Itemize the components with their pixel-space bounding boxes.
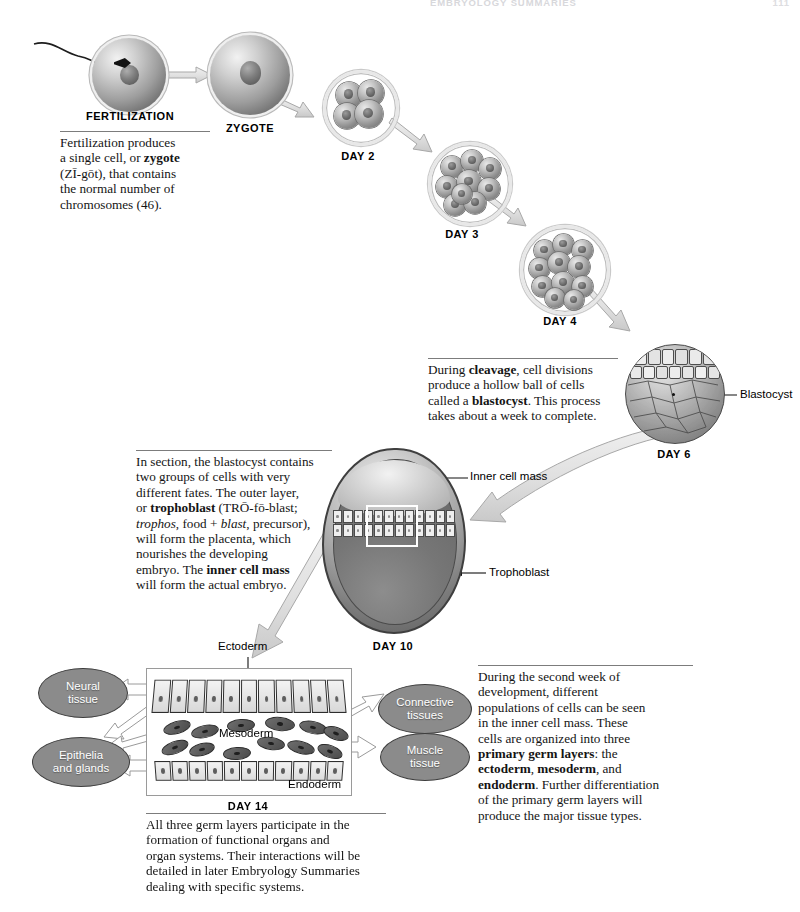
caption-germ-layers-line3: organ systems. Their interactions will b… [146, 848, 386, 863]
caption-section-line4: or trophoblast (TRŌ-fō-blast; [136, 500, 332, 515]
tissue-oval-epithelia-line2: and glands [53, 762, 109, 775]
tissue-oval-neural-line2: tissue [66, 693, 100, 706]
caption-second-week-line10: produce the major tissue types. [478, 808, 693, 823]
caption-section-line3: different fates. The outer layer, [136, 485, 332, 500]
caption-second-week-line7: ectoderm, mesoderm, and [478, 761, 693, 776]
day14-mesoderm-cell [316, 741, 345, 762]
day14-mesoderm-cell [188, 740, 216, 759]
caption-second-week-line5: cells are organized into three [478, 731, 693, 746]
day4-blastomere [548, 252, 570, 274]
stage-label-day3: DAY 3 [392, 228, 532, 240]
ovum-nucleus [120, 65, 139, 86]
caption-second-week: During the second week of development, d… [478, 665, 693, 823]
day14-mesoderm-cell [190, 722, 220, 741]
caption-second-week-line6: primary germ layers: the [478, 746, 693, 761]
tissue-oval-muscle-line2: tissue [407, 757, 443, 770]
caption-second-week-line9: of the primary germ layers will [478, 792, 693, 807]
day4-blastomere [545, 288, 565, 308]
label-ectoderm: Ectoderm [218, 640, 267, 652]
caption-fertilization-line1: Fertilization produces [60, 135, 210, 150]
caption-second-week-line1: During the second week of [478, 669, 693, 684]
caption-fertilization: Fertilization produces a single cell, or… [60, 131, 210, 212]
fertilization-ovum [92, 38, 166, 112]
day6-blastocyst [625, 344, 725, 444]
day6-facets [626, 345, 724, 443]
day3-blastomere [452, 184, 472, 204]
day10-magnified-region-box [366, 505, 418, 547]
day14-mesoderm-cell [160, 737, 191, 759]
caption-section-line7: nourishes the developing [136, 546, 332, 561]
caption-germ-layers-line5: dealing with specific systems. [146, 879, 386, 894]
zygote-nucleus [240, 61, 262, 85]
caption-second-week-line3: populations of cells can be seen [478, 700, 693, 715]
caption-section-line2: two groups of cells with very [136, 469, 332, 484]
tissue-oval-connective-line1: Connective [396, 696, 454, 709]
caption-second-week-line2: development, different [478, 684, 693, 699]
day4-blastomere [564, 290, 584, 310]
tissue-oval-connective: Connective tissues [378, 684, 472, 734]
caption-cleavage: During cleavage, cell divisions produce … [428, 358, 618, 424]
sperm-tail-icon [34, 43, 98, 63]
caption-fertilization-line3: (ZĪ-gōt), that contains [60, 166, 210, 181]
tissue-oval-muscle-line1: Muscle [407, 744, 443, 757]
caption-germ-layers: All three germ layers participate in the… [146, 813, 386, 894]
caption-cleavage-line3: called a blastocyst. This process [428, 393, 618, 408]
stage-label-day4: DAY 4 [490, 315, 630, 327]
day3-blastomere [479, 158, 501, 180]
stage-label-day10: DAY 10 [318, 640, 468, 652]
tissue-oval-epithelia: Epithelia and glands [32, 737, 130, 787]
caption-section-line1: In section, the blastocyst contains [136, 454, 332, 469]
caption-germ-layers-line4: detailed in later Embryology Summaries [146, 863, 386, 878]
label-endoderm: Endoderm [288, 778, 341, 790]
label-inner-cell-mass: Inner cell mass [470, 470, 547, 482]
tissue-oval-neural: Neural tissue [38, 668, 128, 718]
day10-blastocyst-section [322, 448, 466, 634]
day14-mesoderm-cell [223, 746, 252, 761]
caption-fertilization-line4: the normal number of [60, 181, 210, 196]
tissue-oval-epithelia-line1: Epithelia [53, 749, 109, 762]
stage-label-zygote: ZYGOTE [160, 122, 340, 134]
day6-center-dot [672, 393, 675, 396]
label-blastocyst: Blastocyst [740, 388, 792, 400]
caption-section-line8: embryo. The inner cell mass [136, 562, 332, 577]
label-mesoderm: Mesoderm [219, 727, 273, 739]
stage-label-day14: DAY 14 [178, 800, 318, 812]
zygote-cell [210, 35, 290, 115]
day14-mesoderm-cell [162, 717, 192, 737]
caption-second-week-line4: in the inner cell mass. These [478, 715, 693, 730]
caption-cleavage-line2: produce a hollow ball of cells [428, 377, 618, 392]
caption-cleavage-line1: During cleavage, cell divisions [428, 362, 618, 377]
caption-section-line5: trophos, food + blast, precursor), [136, 516, 332, 531]
tissue-oval-neural-line1: Neural [66, 680, 100, 693]
tissue-oval-muscle: Muscle tissue [380, 733, 470, 781]
caption-second-week-line8: endoderm. Further differentiation [478, 777, 693, 792]
stage-label-day2: DAY 2 [288, 150, 428, 162]
stage-label-day6: DAY 6 [604, 448, 744, 460]
day14-ectoderm-row [151, 680, 346, 713]
caption-section: In section, the blastocyst contains two … [136, 450, 332, 593]
caption-fertilization-line5: chromosomes (46). [60, 197, 210, 212]
caption-germ-layers-line2: formation of functional organs and [146, 832, 386, 847]
caption-section-line9: will form the actual embryo. [136, 577, 332, 592]
label-trophoblast: Trophoblast [489, 566, 549, 578]
tissue-oval-connective-line2: tissues [396, 709, 454, 722]
embryology-summary-figure: EMBRYOLOGY SUMMARIES 111 [0, 0, 800, 912]
day4-blastomere [568, 256, 590, 278]
day2-blastomere [355, 100, 383, 128]
stage-label-fertilization: FERTILIZATION [40, 110, 220, 122]
caption-fertilization-line2: a single cell, or zygote [60, 150, 210, 165]
caption-cleavage-line4: takes about a week to complete. [428, 408, 618, 423]
caption-germ-layers-line1: All three germ layers participate in the [146, 817, 386, 832]
day14-mesoderm-cell [322, 723, 351, 743]
caption-section-line6: will form the placenta, which [136, 531, 332, 546]
arrow-fertilization-to-zygote [162, 67, 212, 83]
day14-mesoderm-cell [286, 738, 316, 757]
